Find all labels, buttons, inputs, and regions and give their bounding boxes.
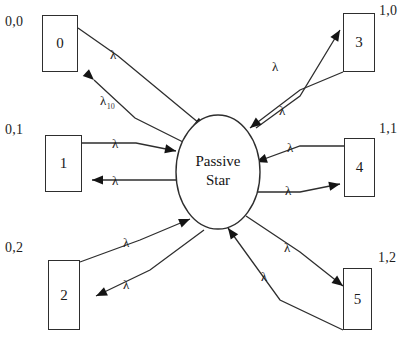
lambda-node1-in: λ <box>112 174 118 187</box>
link-hub-to-node4 <box>258 184 340 192</box>
lambda-node0-in-symbol: λ <box>100 93 106 108</box>
lambda-node2-out: λ <box>123 236 129 249</box>
lambda-node4-out-symbol: λ <box>287 140 293 155</box>
coordinate-label-1: 0,1 <box>5 122 23 138</box>
lambda-node2-out-symbol: λ <box>123 235 129 250</box>
lambda-node4-in-symbol: λ <box>285 183 291 198</box>
lambda-node3-in: λ <box>279 104 285 117</box>
node-box-1[interactable]: 1 <box>45 135 82 192</box>
link-hub-to-node0-arrowhead <box>83 69 94 80</box>
lambda-node5-in-symbol: λ <box>261 269 267 284</box>
lambda-node1-out: λ <box>112 137 118 150</box>
link-node1-to-hub-arrowhead <box>164 144 176 153</box>
lambda-node3-in-symbol: λ <box>279 103 285 118</box>
link-hub-to-node2 <box>96 230 204 296</box>
node-label-1: 1 <box>60 156 68 171</box>
lambda-node2-in-symbol: λ <box>123 277 129 292</box>
link-node2-to-hub-arrowhead <box>178 219 190 228</box>
lambda-node1-out-symbol: λ <box>112 136 118 151</box>
link-node3-to-hub <box>250 72 343 128</box>
link-node0-to-hub <box>78 28 205 128</box>
node-label-4: 4 <box>356 160 364 175</box>
node-box-2[interactable]: 2 <box>48 260 80 330</box>
link-hub-to-node1-arrowhead <box>92 175 103 184</box>
node-label-3: 3 <box>355 35 363 50</box>
coordinate-label-5: 1,2 <box>378 250 396 266</box>
link-hub-to-node4-arrowhead <box>328 182 340 191</box>
node-box-3[interactable]: 3 <box>343 13 375 72</box>
link-hub-to-node5-arrowhead <box>331 276 343 286</box>
link-node1-to-hub <box>82 143 176 151</box>
lambda-node2-in: λ <box>123 278 129 291</box>
node-label-5: 5 <box>354 292 362 307</box>
lambda-node4-out: λ <box>287 141 293 154</box>
lambda-node0-in-subscript: 10 <box>107 102 115 111</box>
lambda-node0-out: λ <box>110 48 116 61</box>
link-hub-to-node0 <box>94 80 183 142</box>
node-box-0[interactable]: 0 <box>42 15 78 72</box>
coordinate-label-3: 1,0 <box>379 3 397 19</box>
link-hub-to-node3-arrowhead <box>330 30 340 42</box>
node-box-5[interactable]: 5 <box>343 268 372 330</box>
lambda-node5-in: λ <box>261 270 267 283</box>
lambda-node5-out-symbol: λ <box>284 240 290 255</box>
lambda-node0-in: λ10 <box>100 94 115 111</box>
lambda-node5-out: λ <box>284 241 290 254</box>
passive-star-diagram: Passive Star 012345 0,00,10,21,01,11,2 λ… <box>0 0 408 347</box>
coordinate-label-2: 0,2 <box>5 240 23 256</box>
link-node4-to-hub <box>256 146 344 162</box>
lambda-node1-in-symbol: λ <box>112 173 118 188</box>
passive-star-ellipse <box>176 115 260 229</box>
node-label-2: 2 <box>60 288 68 303</box>
lambda-node0-out-symbol: λ <box>110 47 116 62</box>
lambda-node4-in: λ <box>285 184 291 197</box>
node-box-4[interactable]: 4 <box>344 138 375 197</box>
link-node5-to-hub-arrowhead <box>228 228 238 240</box>
lambda-node3-out: λ <box>272 60 278 73</box>
node-label-0: 0 <box>56 36 64 51</box>
lambda-node3-out-symbol: λ <box>272 59 278 74</box>
link-node2-to-hub <box>80 219 190 262</box>
coordinate-label-4: 1,1 <box>379 121 397 137</box>
coordinate-label-0: 0,0 <box>5 14 23 30</box>
link-node3-to-hub-arrowhead <box>250 118 262 128</box>
